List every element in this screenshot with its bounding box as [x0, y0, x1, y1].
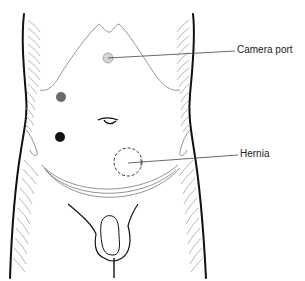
iliac-crest	[26, 130, 190, 156]
umbilicus-icon	[98, 118, 118, 124]
hernia-label: Hernia	[240, 148, 269, 159]
working-port-lower-marker	[55, 132, 65, 142]
camera-port-leader	[108, 51, 235, 58]
camera-port-label: Camera port	[237, 44, 293, 55]
abdomen-diagram	[0, 0, 305, 281]
groin-lines	[42, 165, 180, 197]
pubic-outline	[68, 204, 138, 278]
hernia-leader	[128, 155, 238, 163]
working-port-upper-marker	[56, 92, 66, 102]
